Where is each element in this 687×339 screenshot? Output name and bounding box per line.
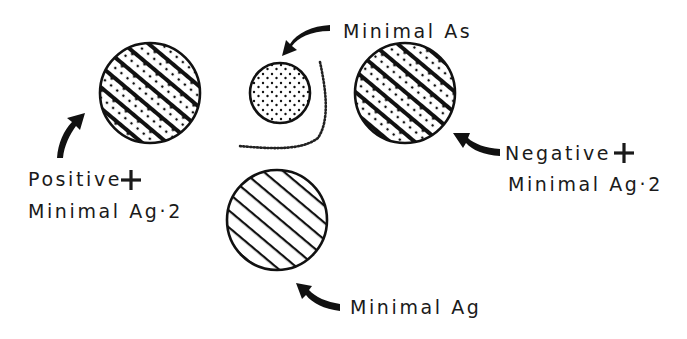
diagram-canvas: Minimal As Positive Minimal Ag·2 Negativ… [0, 0, 687, 339]
label-minimal-ag: Minimal Ag [350, 296, 482, 318]
plus-icon [121, 170, 141, 190]
label-positive: Positive [28, 168, 122, 190]
label-negative: Negative [505, 142, 611, 164]
label-positive-minimal-ag2: Minimal Ag·2 [28, 200, 183, 222]
positive-precipitate-circle [100, 43, 200, 143]
negative-precipitate-circle [355, 43, 455, 143]
arrow-icon [57, 113, 85, 158]
arrow-icon [453, 133, 500, 156]
plus-icon [614, 143, 634, 163]
minimal-as-circle [250, 63, 310, 123]
minimal-ag-circle [227, 170, 327, 270]
arrow-icon [282, 25, 330, 56]
label-minimal-as: Minimal As [343, 20, 472, 42]
label-negative-minimal-ag2: Minimal Ag·2 [508, 173, 663, 195]
arrow-icon [296, 283, 340, 311]
